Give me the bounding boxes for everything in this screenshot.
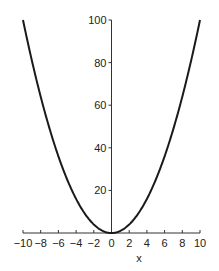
y-tick-label: 40 — [94, 142, 106, 154]
parabola-chart: −10−8−6−4−20246810 20406080100 x — [0, 0, 219, 271]
x-tick-label: −2 — [88, 237, 101, 249]
x-tick-label: −10 — [14, 237, 33, 249]
x-tick-label: 10 — [194, 237, 206, 249]
y-tick-label: 60 — [94, 99, 106, 111]
x-tick-label: −4 — [70, 237, 83, 249]
y-tick-label: 20 — [94, 184, 106, 196]
x-tick-label: 8 — [179, 237, 185, 249]
x-tick-label: 2 — [126, 237, 132, 249]
y-tick-label: 100 — [88, 14, 106, 26]
y-axis: 20406080100 — [88, 14, 111, 233]
x-tick-label: 6 — [162, 237, 168, 249]
x-axis-label: x — [136, 252, 142, 264]
y-tick-label: 80 — [94, 57, 106, 69]
x-tick-label: −6 — [52, 237, 65, 249]
x-tick-label: 0 — [108, 237, 114, 249]
x-tick-label: −8 — [34, 237, 47, 249]
x-tick-label: 4 — [144, 237, 150, 249]
